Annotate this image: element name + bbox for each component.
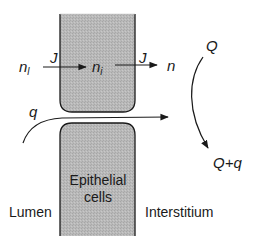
label-Q: Q [206,38,218,53]
label-q: q [29,104,37,119]
interstitial-flow-arrow [192,57,208,148]
label-epithelial-cells: Epithelial cells [65,172,131,206]
label-epithelial-line1: Epithelial [65,172,131,189]
label-n-lumen: nl [19,59,30,77]
label-interstitium: Interstitium [145,205,213,219]
label-Q-plus-q: Q+q [213,155,242,170]
label-n-cell: ni [92,59,103,77]
label-flux-out: J [139,50,147,65]
label-lumen: Lumen [9,205,52,219]
label-epithelial-line2: cells [65,189,131,206]
label-flux-in: J [50,50,58,65]
label-n-interstitium: n [167,58,175,73]
